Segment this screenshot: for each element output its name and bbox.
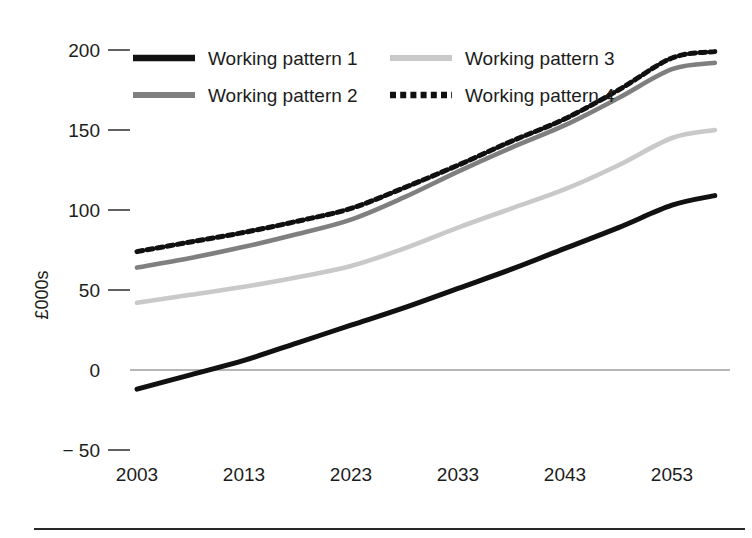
y-tick-label-minus-50: − 50 (62, 440, 100, 461)
y-tick-label-150: 150 (68, 120, 100, 141)
x-tick-label-2053: 2053 (651, 464, 693, 485)
legend-label-working-pattern-2: Working pattern 2 (208, 85, 358, 106)
y-tick-label-50: 50 (79, 280, 100, 301)
legend-label-working-pattern-4: Working pattern 4 (465, 85, 615, 106)
y-tick-label-0: 0 (89, 360, 100, 381)
x-tick-label-2013: 2013 (223, 464, 265, 485)
legend-label-working-pattern-3: Working pattern 3 (465, 48, 615, 69)
legend-label-working-pattern-1: Working pattern 1 (208, 48, 358, 69)
y-axis-title: £000s (32, 270, 52, 319)
x-tick-label-2033: 2033 (437, 464, 479, 485)
x-tick-label-2023: 2023 (330, 464, 372, 485)
x-tick-label-2043: 2043 (544, 464, 586, 485)
x-tick-label-2003: 2003 (116, 464, 158, 485)
line-chart: 200 150 100 50 0 − 50 £000s 2003 2013 20… (0, 0, 752, 538)
chart-background (0, 0, 752, 538)
chart-figure: 200 150 100 50 0 − 50 £000s 2003 2013 20… (0, 0, 752, 538)
y-tick-label-100: 100 (68, 200, 100, 221)
y-tick-label-200: 200 (68, 40, 100, 61)
